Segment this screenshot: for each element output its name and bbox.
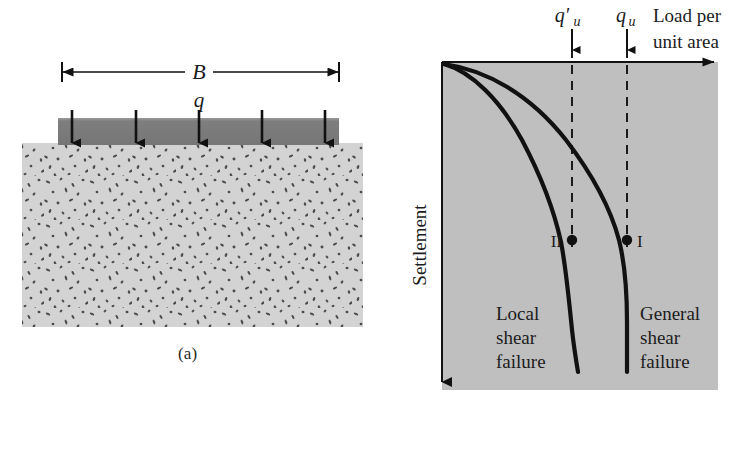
svg-text:u: u (629, 14, 636, 29)
label-general-line3: failure (640, 351, 690, 372)
panel-b-svg: II I q′ u q u Load per unit area Settlem… (376, 0, 752, 470)
label-general-line1: General (640, 303, 700, 324)
x-axis-title-line1: Load per (653, 5, 722, 26)
soil-mass (22, 143, 363, 327)
svg-text:u: u (574, 14, 581, 29)
panel-a-foundation-diagram: B q (a) (0, 0, 376, 400)
point-marker-i (622, 235, 632, 245)
point-marker-ii (567, 235, 577, 245)
label-local-line2: shear (496, 327, 537, 348)
point-label-ii: II (551, 232, 563, 251)
tick-label-qu: q u (616, 4, 636, 29)
caption-a: (a) (178, 344, 197, 364)
figure-container: B q (a) (0, 0, 752, 470)
svg-text:q′: q′ (555, 4, 570, 27)
x-axis-title-line2: unit area (653, 31, 720, 52)
tick-label-qu-prime: q′ u (555, 4, 581, 29)
label-local-line1: Local (496, 303, 539, 324)
point-label-i: I (637, 232, 643, 251)
panel-a-svg: B q (0, 0, 376, 400)
panel-b-load-settlement-chart: II I q′ u q u Load per unit area Settlem… (376, 0, 752, 470)
y-axis-title: Settlement (409, 204, 430, 286)
width-label-b: B (192, 59, 205, 84)
label-local-line3: failure (496, 351, 546, 372)
svg-text:q: q (616, 4, 626, 27)
label-general-line2: shear (640, 327, 681, 348)
load-label-q: q (194, 88, 205, 112)
